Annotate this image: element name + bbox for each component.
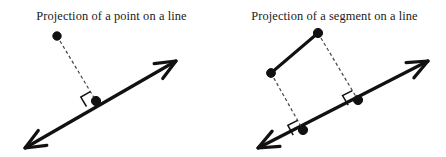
- panel-projection-of-a-point: Projection of a point on a line: [0, 0, 223, 157]
- dot-projection-foot-upper: [353, 95, 362, 104]
- arrowhead-lower-left-icon-barb-0: [258, 146, 280, 148]
- panel-projection-of-a-segment: Projection of a segment on a line: [223, 0, 446, 157]
- arrowhead-upper-right-icon-barb-0: [406, 61, 428, 63]
- dot-projection-foot-lower: [298, 125, 307, 134]
- line-line: [25, 61, 176, 148]
- dashed-dropline-from-left-endpoint: [271, 73, 303, 130]
- arrowhead-lower-left-icon: [25, 130, 47, 148]
- arrowhead-upper-right-icon: [154, 61, 176, 79]
- dot-segment-endpoint-left: [267, 69, 276, 78]
- figure-root: Projection of a point on a line Projecti…: [0, 0, 446, 157]
- dot-point: [53, 32, 61, 40]
- diagram-projection-of-a-point: [0, 0, 223, 157]
- diagram-projection-of-a-segment: [223, 0, 446, 157]
- dot-projection-foot: [91, 96, 100, 105]
- right-angle-mark-right-angle-at-foot: [81, 92, 91, 107]
- dot-segment-endpoint-top: [313, 28, 322, 37]
- segment-segment: [271, 33, 318, 73]
